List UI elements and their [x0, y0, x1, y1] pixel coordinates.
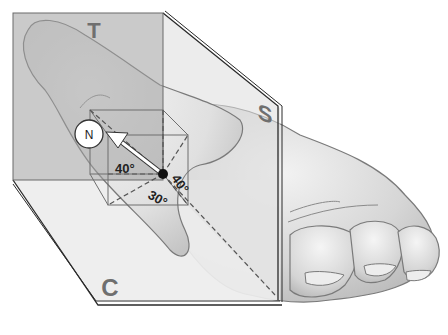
n-marker-label: N — [85, 128, 94, 142]
origin-point — [158, 169, 168, 179]
angle-label-coronal: 40° — [115, 161, 135, 176]
plane-label-coronal: C — [101, 274, 118, 301]
plane-label-sagittal: S — [258, 98, 273, 129]
diagram-canvas: N 40° 40° 30° T S C — [0, 0, 448, 335]
plane-label-transverse: T — [87, 18, 101, 43]
